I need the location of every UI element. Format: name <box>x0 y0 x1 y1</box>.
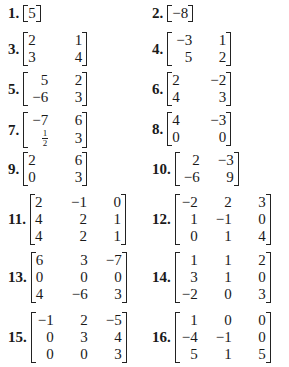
matrix-row: 26 <box>28 152 82 169</box>
exercise-number: 3. <box>8 41 19 58</box>
matrix-entry: −2 <box>180 194 198 211</box>
matrix-entry: 5 <box>172 49 192 66</box>
exercise-item: 7.−76123 <box>8 112 87 148</box>
matrix-entry: 6 <box>48 152 82 169</box>
exercise-item: 14.112310−203 <box>152 252 271 303</box>
matrix-entry: 5 <box>232 346 266 363</box>
matrix-row: −69 <box>180 169 234 186</box>
matrix-entry: −6 <box>180 169 200 186</box>
exercise-item: 3.2134 <box>8 32 87 66</box>
matrix-entry: 1 <box>87 228 121 245</box>
matrix-entry: 4 <box>172 112 192 129</box>
matrix-entry: 1 <box>87 211 121 228</box>
matrix: 63−70004−63 <box>31 252 127 303</box>
matrix-row: 03 <box>28 169 82 186</box>
matrix-entry: 1 <box>180 252 198 269</box>
matrix-row: 63−7 <box>36 252 122 269</box>
matrix-row: 52 <box>172 49 226 66</box>
matrix-entry: 4 <box>35 211 53 228</box>
exercise-item: 16.100−4−10515 <box>152 312 271 363</box>
matrix-entry: 1 <box>180 312 198 329</box>
matrix-entry: −4 <box>180 329 198 346</box>
matrix-entry: 0 <box>172 129 192 146</box>
fraction: 12 <box>42 129 49 148</box>
exercise-item: 15.−12−5034003 <box>8 312 127 363</box>
matrix-row: 5 <box>28 5 36 22</box>
matrix-entry: 3 <box>54 252 88 269</box>
matrix-entry: 0 <box>232 312 266 329</box>
matrix-row: −12−5 <box>36 312 122 329</box>
matrix: −76123 <box>23 112 87 148</box>
matrix-entry: 0 <box>87 194 121 211</box>
matrix-entry: 1 <box>198 252 232 269</box>
matrix-entry: 2 <box>172 72 192 89</box>
matrix-entry: 2 <box>28 32 48 49</box>
matrix-entry: −3 <box>192 112 226 129</box>
matrix-entry: 0 <box>36 329 54 346</box>
exercise-number: 11. <box>8 211 26 228</box>
matrix-entry: 3 <box>48 129 82 148</box>
matrix-entry: 4 <box>48 49 82 66</box>
matrix-entry: 5 <box>180 346 198 363</box>
matrix-row: 515 <box>180 346 266 363</box>
matrix: 52−63 <box>23 72 87 106</box>
matrix-entry: 0 <box>36 346 54 363</box>
exercise-item: 10.2−3−69 <box>152 152 239 186</box>
matrix-row: 1−10 <box>180 211 266 228</box>
matrix-row: 4−63 <box>36 286 122 303</box>
matrix-row: −31 <box>172 32 226 49</box>
matrix-entry: 0 <box>198 312 232 329</box>
matrix-entry: 2 <box>232 252 266 269</box>
matrix-row: 2−3 <box>180 152 234 169</box>
matrix-entry: 0 <box>232 269 266 286</box>
matrix: −8 <box>167 5 193 22</box>
matrix-entry: −1 <box>53 194 87 211</box>
matrix-entry: 2 <box>198 194 232 211</box>
matrix-row: 2−2 <box>172 72 226 89</box>
matrix-entry: 2 <box>54 312 88 329</box>
exercise-number: 12. <box>152 211 171 228</box>
matrix-entry: −8 <box>172 5 188 22</box>
exercise-item: 4.−3152 <box>152 32 231 66</box>
matrix-entry: −3 <box>172 32 192 49</box>
matrix-entry: 3 <box>88 346 122 363</box>
exercise-number: 14. <box>152 269 171 286</box>
matrix-entry: −7 <box>28 112 48 129</box>
matrix-entry: −2 <box>192 72 226 89</box>
exercise-number: 13. <box>8 269 27 286</box>
matrix-entry: 3 <box>48 89 82 106</box>
exercise-item: 6.2−243 <box>152 72 231 106</box>
matrix: 2−3−69 <box>175 152 239 186</box>
matrix: 2−10421421 <box>30 194 126 245</box>
matrix-entry: 12 <box>28 129 48 148</box>
matrix-entry: −1 <box>198 329 232 346</box>
matrix-row: 43 <box>172 89 226 106</box>
matrix-row: 034 <box>36 329 122 346</box>
matrix-entry: 0 <box>192 129 226 146</box>
exercise-item: 9.2603 <box>8 152 87 186</box>
exercise-number: 10. <box>152 161 171 178</box>
matrix-row: 112 <box>180 252 266 269</box>
matrix: 2134 <box>23 32 87 66</box>
exercise-number: 6. <box>152 81 163 98</box>
matrix-entry: 0 <box>54 269 88 286</box>
matrix-entry: 4 <box>232 228 266 245</box>
matrix-row: −63 <box>28 89 82 106</box>
matrix-row: 4−3 <box>172 112 226 129</box>
matrix-entry: 2 <box>28 152 48 169</box>
exercise-item: 8.4−300 <box>152 112 231 146</box>
matrix-entry: −2 <box>180 286 198 303</box>
matrix-entry: −6 <box>54 286 88 303</box>
matrix-entry: 0 <box>180 228 198 245</box>
matrix: 2603 <box>23 152 87 186</box>
matrix-entry: −1 <box>36 312 54 329</box>
matrix-entry: 0 <box>54 346 88 363</box>
matrix-entry: 2 <box>48 72 82 89</box>
matrix-entry: 5 <box>28 5 36 22</box>
matrix-entry: 0 <box>28 169 48 186</box>
matrix-row: −4−10 <box>180 329 266 346</box>
matrix-entry: 3 <box>232 194 266 211</box>
exercise-number: 7. <box>8 122 19 139</box>
matrix-row: 000 <box>36 269 122 286</box>
matrix-row: −8 <box>172 5 188 22</box>
